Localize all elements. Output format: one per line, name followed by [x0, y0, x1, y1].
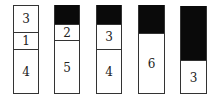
column-2: 25 — [54, 5, 80, 94]
segment-label: 4 — [105, 65, 113, 79]
segment-label: 1 — [22, 34, 30, 48]
segment-label: 3 — [105, 30, 113, 44]
column-4: 6 — [138, 5, 165, 94]
segment-label: 6 — [148, 57, 156, 71]
segment: 2 — [55, 24, 79, 40]
segment-label: 3 — [22, 12, 30, 26]
segment: 4 — [14, 49, 38, 94]
filled-segment — [139, 5, 164, 33]
column-3: 34 — [96, 5, 122, 94]
column-1: 314 — [13, 5, 39, 94]
segment-label: 5 — [63, 61, 71, 75]
segment: 1 — [14, 32, 38, 49]
column-5: 3 — [180, 6, 207, 94]
segment: 3 — [14, 5, 38, 32]
filled-segment — [97, 5, 121, 24]
segment: 6 — [139, 33, 164, 94]
segment: 4 — [97, 49, 121, 94]
segment-label: 2 — [63, 26, 71, 40]
filled-segment — [55, 5, 79, 24]
segment: 5 — [55, 40, 79, 94]
segment: 3 — [181, 60, 206, 94]
filled-segment — [181, 6, 206, 60]
segment-label: 3 — [190, 71, 198, 85]
segment-label: 4 — [22, 65, 30, 79]
segment: 3 — [97, 24, 121, 49]
